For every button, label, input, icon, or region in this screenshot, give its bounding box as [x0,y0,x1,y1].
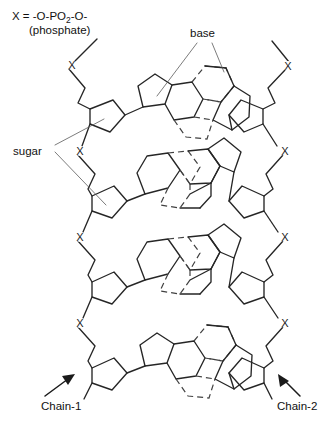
leader-sugar-lower [55,152,106,205]
right-phosphate-markers: X X X X [280,60,293,329]
purine-edge-2 [190,183,211,194]
dna-structure-svg: X X X X X X X X [0,0,331,425]
pyrimidine-6ring-2 [137,153,180,194]
sugar-ring-left-1 [90,100,125,132]
pyrimidine-edge-1 [226,68,234,86]
hbond-lower-4 [176,379,215,398]
glycosidic-bond-1-left [125,107,143,115]
base-pair-rung-3 [127,224,241,294]
phosphate-formula-note: (phosphate) [29,24,91,36]
glycosidic-bond-3-left [127,280,145,287]
purine-5ring-3 [208,224,241,258]
sugar-ring-right-3 [229,272,264,304]
dna-diagram: X X X X X X X X [0,0,331,425]
pyrimidine-edge-4b [207,325,228,327]
phosphate-marker-right-3: X [281,231,289,243]
purine-5ring-4 [140,333,174,366]
sugar-ring-left-4 [92,358,127,390]
backbone-terminal-right-bottom [264,383,272,399]
backbone-seg-left-4 [83,211,92,232]
backbone-seg-right-7 [264,327,283,368]
sugar-ring-right-2 [229,186,264,218]
phosphate-formula: X = -O-PO2-O- [12,10,88,25]
chain-2-arrow [278,374,300,396]
hbond-1b [194,117,213,120]
purine-5ring-2 [208,138,241,172]
hbond-4b [196,376,215,379]
label-chain-1: Chain-1 [41,400,81,412]
backbone-seg-right-2 [263,124,277,146]
phosphate-marker-right-1: X [284,60,292,72]
label-chain-2: Chain-2 [277,400,317,412]
leader-base-left [157,43,197,96]
chain-2-arrow-head [278,374,289,387]
phosphate-marker-right-4: X [281,317,289,329]
backbone-terminal-left-bottom [84,383,92,399]
sugar-ring-right-4 [229,358,264,390]
backbone-seg-left-1 [69,69,90,109]
hbond-lower-1 [174,120,213,139]
phosphate-marker-left-4: X [76,317,84,329]
purine-5ring-1 [138,74,172,107]
sugar-ring-left-3 [92,272,127,304]
leader-sugar-upper [55,119,104,145]
backbone-seg-right-5 [264,241,283,282]
chain-1-arrow-line [45,379,68,396]
right-backbone [229,41,289,399]
backbone-seg-right-6 [264,297,278,318]
pyrimidine-6ring-1 [213,86,250,130]
hbond-hex-2 [168,151,200,184]
chain-1-arrow [45,374,75,396]
hbond-3a [180,256,190,270]
label-sugar: sugar [13,145,42,157]
glycosidic-bond-2-left [127,194,145,201]
chain-1-arrow-head [62,374,75,385]
backbone-seg-right-1 [263,70,285,109]
pyrimidine-edge-1b [205,66,226,68]
hbond-lower-2 [160,188,190,208]
backbone-seg-left-5 [78,241,95,282]
purine-edge-3b [200,269,211,294]
chain-2-arrow-line [285,381,300,396]
text-labels: X = -O-PO2-O- (phosphate) base sugar Cha… [12,10,317,412]
backbone-terminal-right-top [272,41,289,62]
pyrimidine-6ring-3 [137,239,180,280]
purine-edge-3 [190,269,211,280]
pyrimidine-edge-4 [228,327,236,345]
base-pair-rung-1 [125,66,250,139]
backbone-seg-left-7 [78,327,95,368]
left-phosphate-markers: X X X X [67,59,85,329]
backbone-seg-right-3 [264,155,283,196]
glycosidic-bond-4-left [127,366,145,373]
hbond-lower-3 [160,274,190,294]
backbone-seg-right-4 [264,211,278,232]
base-pair-rung-4 [127,325,252,398]
phosphate-marker-right-2: X [281,145,289,157]
sugar-ring-left-2 [92,186,127,218]
purine-edge-2b [200,183,211,208]
sugar-ring-right-1 [229,100,263,132]
phosphate-marker-left-1: X [68,59,76,71]
hbond-hex-3 [168,237,200,270]
backbone-seg-left-6 [83,297,92,318]
base-pair-rung-2 [127,138,241,208]
purine-fuse-2 [211,166,220,183]
left-backbone [69,39,127,399]
backbone-terminal-left-top [74,39,97,62]
purine-fuse-3 [211,252,220,269]
phosphate-marker-left-3: X [76,231,84,243]
backbone-seg-left-3 [78,155,95,196]
label-base: base [190,27,215,39]
phosphate-marker-left-2: X [76,145,84,157]
hbond-2a [180,170,190,184]
